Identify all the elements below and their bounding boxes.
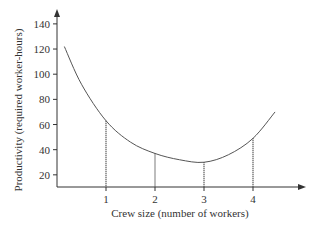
productivity-chart: 20406080100120140 1234 Crew size (number… — [0, 0, 318, 231]
x-axis: 1234 — [57, 184, 306, 205]
productivity-curve — [64, 47, 275, 163]
y-tick-label: 20 — [39, 169, 51, 181]
x-tick-label: 2 — [152, 193, 158, 205]
y-tick-label: 80 — [39, 93, 51, 105]
y-tick-label: 100 — [34, 68, 51, 80]
y-axis-label: Productivity (required worker-hours) — [12, 28, 25, 191]
y-axis-arrow-icon — [54, 9, 60, 17]
x-tick-label: 3 — [201, 193, 207, 205]
y-tick-label: 60 — [39, 119, 51, 131]
y-tick-label: 120 — [34, 43, 51, 55]
x-axis-label: Crew size (number of workers) — [111, 207, 249, 220]
x-axis-arrow-icon — [298, 184, 306, 190]
y-tick-label: 140 — [34, 18, 51, 30]
y-tick-label: 40 — [39, 144, 51, 156]
x-tick-label: 1 — [103, 193, 109, 205]
x-tick-label: 4 — [250, 193, 256, 205]
y-axis: 20406080100120140 — [34, 9, 61, 187]
